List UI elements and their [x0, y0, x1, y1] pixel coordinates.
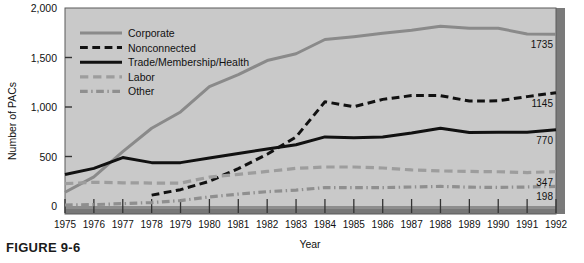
- legend-label: Labor: [128, 71, 155, 83]
- plot-3d-right-face: [556, 8, 565, 214]
- x-tick-label: 1977: [112, 219, 135, 230]
- legend-label: Nonconnected: [128, 42, 196, 54]
- x-tick-label: 1981: [227, 219, 250, 230]
- y-tick-label: 2,000: [31, 2, 57, 14]
- end-value-label: 770: [536, 135, 553, 146]
- x-tick-label: 1987: [400, 219, 423, 230]
- x-tick-label: 1992: [545, 219, 568, 230]
- end-value-label: 347: [536, 177, 553, 188]
- y-tick-label: 1,500: [31, 52, 57, 64]
- pac-growth-line-chart: 05001,0001,5002,000 19751976197719781979…: [0, 0, 584, 263]
- figure-caption: FIGURE 9-6: [6, 240, 81, 255]
- y-tick-label: 500: [39, 151, 57, 163]
- end-value-label: 1145: [531, 98, 553, 109]
- x-tick-label: 1984: [314, 219, 337, 230]
- x-tick-label: 1975: [54, 219, 77, 230]
- x-tick-label: 1986: [372, 219, 395, 230]
- x-tick-label: 1982: [256, 219, 279, 230]
- x-tick-label: 1979: [169, 219, 192, 230]
- x-tick-label: 1985: [343, 219, 366, 230]
- legend-label: Trade/Membership/Health: [128, 56, 249, 68]
- x-tick-label: 1978: [141, 219, 164, 230]
- x-tick-label: 1983: [285, 219, 308, 230]
- y-axis-tick-labels: 05001,0001,5002,000: [31, 2, 57, 212]
- x-tick-label: 1991: [516, 219, 539, 230]
- x-axis-tick-labels: 1975197619771978197919801981198219831984…: [54, 219, 568, 230]
- x-tick-label: 1989: [458, 219, 481, 230]
- end-value-label: 1735: [531, 39, 554, 50]
- y-tick-label: 0: [51, 200, 57, 212]
- x-tick-label: 1980: [198, 219, 221, 230]
- x-tick-label: 1990: [487, 219, 510, 230]
- y-tick-label: 1,000: [31, 101, 57, 113]
- plot-floor-front-face: [65, 209, 565, 214]
- legend-label: Corporate: [128, 27, 175, 39]
- end-value-label: 198: [536, 191, 553, 202]
- y-axis-title: Number of PACs: [6, 82, 18, 160]
- figure-container: 05001,0001,5002,000 19751976197719781979…: [0, 0, 584, 263]
- x-tick-label: 1976: [83, 219, 106, 230]
- legend-label: Other: [128, 85, 155, 97]
- x-axis-title: Year: [299, 238, 321, 250]
- x-tick-label: 1988: [429, 219, 452, 230]
